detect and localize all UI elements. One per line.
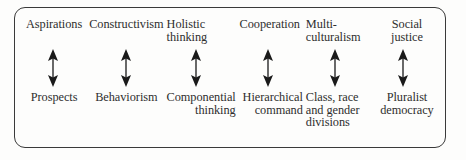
concept-pair-column: Multi- culturalism Class, race and gende…: [304, 7, 372, 148]
double-headed-arrow-icon: [301, 46, 369, 90]
bottom-concept-label: Prospects: [20, 91, 88, 104]
concept-pair-column: Cooperation Hierarchical command: [236, 7, 304, 148]
concept-pair-column: Aspirations Prospects: [20, 7, 88, 148]
top-concept-label: Holistic thinking: [166, 18, 237, 46]
concept-pair-column: Social justice Pluralist democracy: [372, 7, 440, 148]
concept-pair-column: Holistic thinking Componential thinking: [165, 7, 236, 148]
top-concept-label: Cooperation: [236, 18, 304, 46]
double-headed-arrow-icon: [161, 46, 232, 90]
double-headed-arrow-icon: [19, 46, 87, 90]
bottom-concept-label: Hierarchical command: [236, 91, 304, 116]
top-concept-label: Social justice: [373, 18, 441, 46]
double-headed-arrow-icon: [234, 46, 302, 90]
top-concept-label: Multi- culturalism: [305, 18, 373, 46]
concept-pairs-diagram: Aspirations Prospects Constructivism Beh…: [0, 0, 466, 160]
bottom-concept-label: Class, race and gender divisions: [305, 91, 373, 129]
double-headed-arrow-icon: [88, 46, 164, 90]
double-headed-arrow-icon: [369, 46, 437, 90]
bottom-concept-label: Pluralist democracy: [373, 91, 441, 116]
top-concept-label: Constructivism: [88, 18, 164, 46]
bottom-concept-label: Behaviorism: [88, 91, 164, 104]
concept-columns-container: Aspirations Prospects Constructivism Beh…: [14, 7, 446, 148]
concept-pair-column: Constructivism Behaviorism: [88, 7, 164, 148]
top-concept-label: Aspirations: [20, 18, 88, 46]
bottom-concept-label: Componential thinking: [166, 91, 237, 116]
